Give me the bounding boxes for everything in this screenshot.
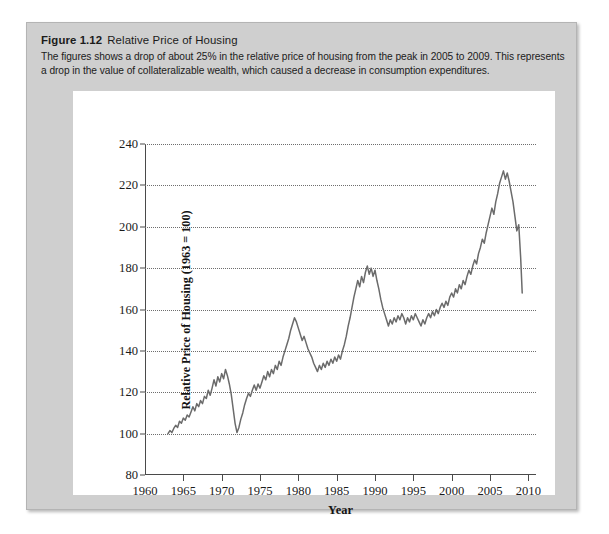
x-tick-label-1985: 1985 — [324, 484, 349, 499]
x-tick-mark-1975 — [260, 475, 261, 481]
x-tick-mark-1970 — [222, 475, 223, 481]
x-axis-title: Year — [328, 503, 353, 518]
x-tick-mark-2005 — [490, 475, 491, 481]
figure-number: Figure 1.12 — [41, 34, 102, 46]
x-tick-label-1990: 1990 — [362, 484, 387, 499]
figure-description: The figures shows a drop of about 25% in… — [41, 50, 565, 77]
figure-name: Relative Price of Housing — [107, 34, 237, 46]
y-tick-label-160: 160 — [119, 302, 138, 317]
x-tick-mark-2010 — [528, 475, 529, 481]
y-tick-label-80: 80 — [125, 468, 138, 483]
x-tick-mark-1990 — [375, 475, 376, 481]
x-tick-mark-1980 — [298, 475, 299, 481]
y-tick-label-220: 220 — [119, 178, 138, 193]
x-tick-label-2000: 2000 — [439, 484, 464, 499]
y-tick-label-200: 200 — [119, 219, 138, 234]
series-line-housing — [145, 144, 536, 475]
x-tick-label-1975: 1975 — [247, 484, 272, 499]
x-tick-label-2010: 2010 — [516, 484, 541, 499]
x-tick-mark-1985 — [337, 475, 338, 481]
figure-caption: Figure 1.12Relative Price of Housing The… — [41, 34, 565, 77]
x-tick-mark-2000 — [452, 475, 453, 481]
x-tick-label-1965: 1965 — [171, 484, 196, 499]
x-tick-label-1995: 1995 — [401, 484, 426, 499]
y-axis-title: Relative Price of Housing (1963 = 100) — [179, 210, 194, 409]
series-path-0 — [168, 171, 522, 434]
x-tick-label-1970: 1970 — [209, 484, 234, 499]
x-tick-mark-1965 — [183, 475, 184, 481]
x-tick-label-1960: 1960 — [132, 484, 157, 499]
y-tick-label-120: 120 — [119, 385, 138, 400]
figure-panel: Figure 1.12Relative Price of Housing The… — [26, 22, 577, 510]
y-tick-label-180: 180 — [119, 261, 138, 276]
x-tick-mark-1995 — [413, 475, 414, 481]
plot-area: 80100120140160180200220240 1960196519701… — [145, 144, 536, 475]
x-tick-label-1980: 1980 — [286, 484, 311, 499]
y-tick-label-140: 140 — [119, 343, 138, 358]
y-tick-label-100: 100 — [119, 426, 138, 441]
chart-card: 80100120140160180200220240 1960196519701… — [73, 91, 555, 495]
y-tick-label-240: 240 — [119, 137, 138, 152]
x-tick-label-2005: 2005 — [477, 484, 502, 499]
figure-title: Figure 1.12Relative Price of Housing — [41, 34, 565, 46]
